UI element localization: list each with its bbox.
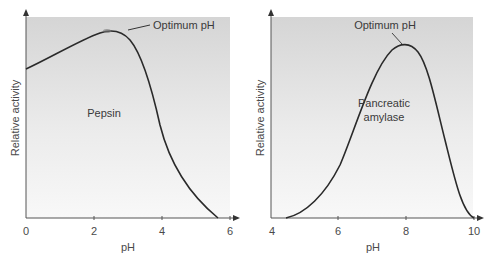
x-tick-label: 8: [403, 225, 409, 237]
plot-area-left: [26, 17, 230, 218]
x-tick-label: 4: [269, 225, 275, 237]
pepsin-label: Pepsin: [87, 107, 121, 119]
amylase-label-line1: Pancreatic: [358, 97, 410, 109]
optimum-ph-label-left: Optimum pH: [153, 19, 215, 31]
x-tick-label: 0: [23, 225, 29, 237]
x-tick-label: 2: [91, 225, 97, 237]
x-tick-label: 6: [227, 225, 233, 237]
x-tick-label: 4: [159, 225, 165, 237]
x-axis-arrow-icon: [233, 215, 240, 221]
optimum-ph-label-right: Optimum pH: [354, 19, 416, 31]
x-axis-arrow-icon: [477, 215, 484, 221]
y-axis-arrow-icon: [23, 9, 29, 16]
figure: 0 2 4 6 pH Relative activity Optimum pH …: [0, 0, 488, 258]
y-axis-label: Relative activity: [9, 79, 21, 156]
x-tick-label: 6: [335, 225, 341, 237]
pepsin-chart: 0 2 4 6 pH Relative activity Optimum pH …: [9, 9, 240, 253]
x-axis-label: pH: [121, 241, 135, 253]
y-axis-label: Relative activity: [254, 79, 266, 156]
amylase-chart: 4 6 8 10 pH Relative activity Optimum pH…: [254, 9, 484, 253]
amylase-label-line2: amylase: [364, 111, 405, 123]
optimum-marker: [103, 29, 111, 33]
x-tick-label: 10: [468, 225, 480, 237]
x-axis-label: pH: [366, 241, 380, 253]
y-axis-arrow-icon: [268, 9, 274, 16]
